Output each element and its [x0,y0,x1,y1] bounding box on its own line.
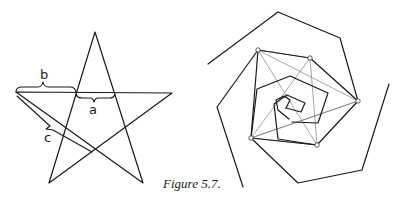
spiral-figure [208,12,389,187]
label-c: c [44,130,51,145]
vertex-marker [256,48,260,52]
brace-b [16,82,76,92]
vertex-marker [249,136,253,140]
vertex-marker [315,143,319,147]
figure-canvas: b a c Figure 5.7. [0,0,400,200]
label-a: a [89,102,97,117]
spiral-inner [276,96,290,119]
spiral-ring-3b [274,95,317,145]
label-b: b [40,67,48,82]
vertex-marker [356,99,360,103]
vertex-marker [308,56,312,60]
figure-caption: Figure 5.7. [162,176,221,191]
brace-c [17,96,92,152]
spiral-arm-outer-left [217,50,258,187]
brace-a [76,94,115,102]
spiral-arm-outer-right [251,84,389,183]
star-lines [251,50,358,145]
